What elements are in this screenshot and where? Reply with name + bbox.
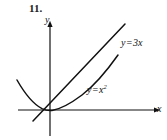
label-line-equals: = xyxy=(125,37,133,48)
graph-figure xyxy=(0,0,167,140)
label-line-equation: y=3x xyxy=(121,37,143,48)
label-parabola-equals: = xyxy=(91,84,99,95)
label-line-rhs: 3x xyxy=(133,37,142,48)
figure-page: 11. y=3x y=x2 y x xyxy=(0,0,167,140)
x-axis-label: x xyxy=(157,104,161,114)
y-axis-label: y xyxy=(45,15,49,25)
label-parabola-equation: y=x2 xyxy=(87,84,107,95)
label-parabola-exponent: 2 xyxy=(104,83,107,90)
curve-line xyxy=(33,24,125,121)
